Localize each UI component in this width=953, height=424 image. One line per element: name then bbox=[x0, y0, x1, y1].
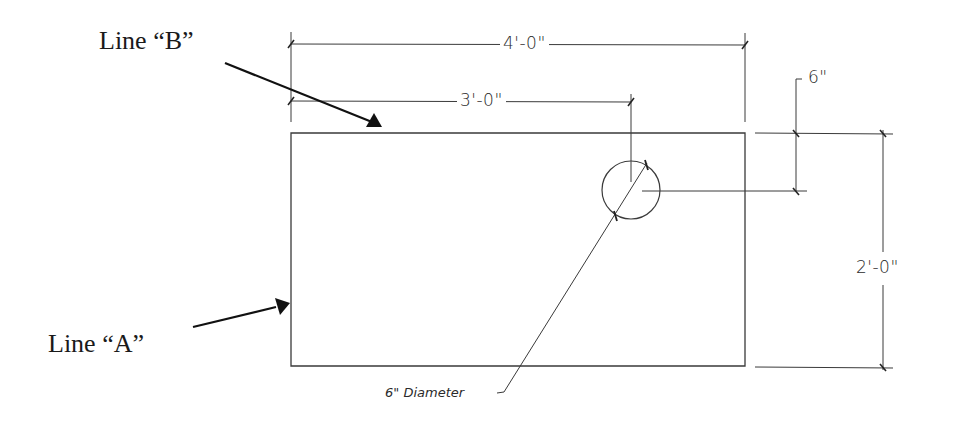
technical-drawing: Line “B” Line “A” 4'-0" 3'-0" 6" 2'-0" 6… bbox=[0, 0, 953, 424]
dimension-label-6in: 6" bbox=[806, 69, 830, 86]
dimension-label-2ft: 2'-0" bbox=[853, 259, 902, 276]
diameter-leader bbox=[497, 163, 647, 393]
dimension-label-3ft: 3'-0" bbox=[457, 92, 506, 109]
plate-outline bbox=[291, 133, 745, 366]
extension-line-top-right bbox=[755, 133, 893, 134]
extension-line-bottom-right bbox=[755, 367, 893, 368]
arrow-line-a-head bbox=[275, 298, 290, 315]
arrow-line-a-shaft bbox=[193, 307, 276, 327]
dimension-label-4ft: 4'-0" bbox=[500, 35, 549, 52]
callout-line-a: Line “A” bbox=[48, 331, 144, 357]
hole-diameter-note: 6" Diameter bbox=[385, 386, 464, 399]
arrow-line-b-shaft bbox=[225, 63, 372, 122]
drawing-geometry bbox=[0, 0, 953, 424]
callout-line-b: Line “B” bbox=[99, 28, 194, 54]
